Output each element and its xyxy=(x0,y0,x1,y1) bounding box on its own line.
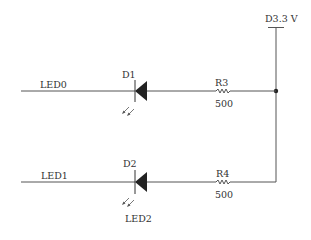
resistor-r4-icon xyxy=(216,180,232,184)
ref-r3: R3 xyxy=(215,77,228,88)
ref-d2: D2 xyxy=(123,158,137,169)
resistor-r3-icon xyxy=(216,89,232,93)
net-label-led1: LED1 xyxy=(41,170,68,181)
branch-led1: LED1 D2 LED2 R4 500 xyxy=(21,158,276,224)
value-r3: 500 xyxy=(215,98,233,109)
net-label-led0: LED0 xyxy=(40,79,67,90)
led-d1-icon xyxy=(122,80,147,116)
value-r4: 500 xyxy=(215,189,233,200)
branch-led0: LED0 D1 R3 500 xyxy=(21,69,276,116)
supply-label: D3.3 V xyxy=(265,13,298,24)
led-d2-icon xyxy=(122,170,147,207)
part-label-led2: LED2 xyxy=(125,213,152,224)
circuit-schematic: D3.3 V LED0 D1 R3 500 LED1 xyxy=(0,0,311,240)
ref-d1: D1 xyxy=(122,69,136,80)
ref-r4: R4 xyxy=(216,168,229,179)
supply-rail: D3.3 V xyxy=(265,13,298,182)
